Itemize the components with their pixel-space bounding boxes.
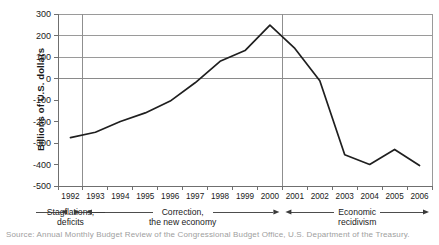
svg-text:2004: 2004 — [361, 192, 380, 201]
svg-text:1992: 1992 — [61, 192, 80, 201]
svg-text:2001: 2001 — [286, 192, 305, 201]
caption-text: Source: Annual Monthly Budget Review of … — [6, 232, 436, 239]
x-tick-labels: 1992199319941995199619971998199920002001… — [58, 186, 432, 201]
svg-text:2000: 2000 — [261, 192, 280, 201]
svg-text:1996: 1996 — [161, 192, 180, 201]
svg-text:Economic: Economic — [338, 207, 376, 217]
svg-text:2002: 2002 — [311, 192, 330, 201]
svg-text:200: 200 — [36, 31, 51, 41]
chart-figure: Billions of U.S. dollars 3002001000-100-… — [0, 0, 439, 245]
svg-text:-100: -100 — [33, 95, 51, 105]
svg-text:1993: 1993 — [86, 192, 105, 201]
svg-text:-400: -400 — [33, 160, 51, 170]
svg-text:the new economy: the new economy — [149, 217, 217, 227]
y-tick-labels: 3002001000-100-200-300-400-500 — [33, 9, 58, 191]
period-annotations: Stagflations,deficitsCorrection,the new … — [36, 207, 429, 227]
svg-text:2003: 2003 — [336, 192, 355, 201]
svg-text:1999: 1999 — [236, 192, 255, 201]
svg-text:1997: 1997 — [186, 192, 205, 201]
svg-text:2005: 2005 — [385, 192, 404, 201]
period-dividers — [83, 14, 282, 186]
clipped-caption: Source: Annual Monthly Budget Review of … — [0, 232, 439, 245]
svg-text:1995: 1995 — [136, 192, 155, 201]
svg-text:1998: 1998 — [211, 192, 230, 201]
svg-text:-500: -500 — [33, 181, 51, 191]
svg-text:-300: -300 — [33, 138, 51, 148]
svg-text:300: 300 — [36, 9, 51, 19]
svg-text:0: 0 — [46, 74, 51, 84]
svg-text:2006: 2006 — [410, 192, 429, 201]
svg-text:-200: -200 — [33, 117, 51, 127]
svg-text:deficits: deficits — [57, 217, 84, 227]
svg-text:1994: 1994 — [111, 192, 130, 201]
series-line — [70, 25, 419, 165]
line-chart-canvas: 3002001000-100-200-300-400-500 199219931… — [0, 0, 439, 245]
svg-text:recidivism: recidivism — [338, 217, 376, 227]
svg-text:100: 100 — [36, 52, 51, 62]
svg-text:Correction,: Correction, — [162, 207, 204, 217]
